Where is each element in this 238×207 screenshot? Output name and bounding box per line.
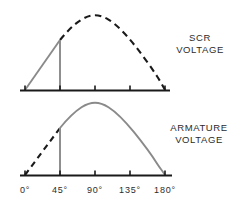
armature-voltage-label-line1: ARMATURE (160, 122, 238, 134)
axis-tick-label-135: 135° (119, 185, 141, 195)
axis-tick-label-45: 45° (52, 185, 68, 195)
axis-tick-label-180: 180° (154, 185, 176, 195)
axis-tick-label-0: 0° (20, 185, 30, 195)
scr-blocked-sine-path (60, 15, 165, 90)
waveform-figure: SCR VOLTAGE ARMATURE VOLTAGE 0°45°90°135… (0, 0, 238, 207)
armature-voltage-panel (20, 103, 172, 176)
scr-voltage-label: SCR VOLTAGE (165, 32, 235, 56)
scr-conducting-ramp-path (25, 40, 60, 90)
scr-voltage-panel (20, 15, 170, 90)
scr-voltage-label-line2: VOLTAGE (165, 44, 235, 56)
armature-voltage-label-line2: VOLTAGE (160, 134, 238, 146)
armature-voltage-label: ARMATURE VOLTAGE (160, 122, 238, 146)
armature-blocked-sine-path (25, 128, 60, 175)
scr-voltage-label-line1: SCR (165, 32, 235, 44)
axis-tick-label-90: 90° (87, 185, 103, 195)
armature-conducting-sine-path (60, 103, 165, 175)
